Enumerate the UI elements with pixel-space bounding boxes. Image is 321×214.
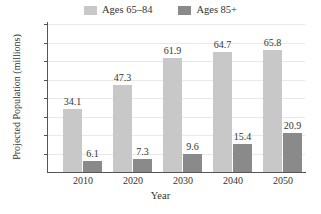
bar-group: 47.37.3 xyxy=(113,24,153,172)
bar-group: 65.820.9 xyxy=(263,24,303,172)
bar-ages-65-84 xyxy=(63,109,82,172)
x-axis-line xyxy=(47,172,306,173)
y-axis-tick-mark xyxy=(44,24,48,25)
y-axis-tick-mark xyxy=(44,98,48,99)
y-axis-tick-mark xyxy=(44,43,48,44)
y-axis-tick-mark xyxy=(44,135,48,136)
y-axis-tick-mark xyxy=(44,61,48,62)
bar-value-label: 65.8 xyxy=(264,38,282,48)
bar-value-label: 15.4 xyxy=(234,132,252,142)
x-axis-tick-label: 2030 xyxy=(158,176,208,186)
bar-value-label: 61.9 xyxy=(164,46,182,56)
legend-swatch-icon-ages-85-plus xyxy=(178,6,191,15)
bar-ages-85-plus xyxy=(283,133,302,172)
bar-value-label: 64.7 xyxy=(214,40,232,50)
x-axis-tick-label: 2050 xyxy=(258,176,308,186)
legend-label-ages-85-plus: Ages 85+ xyxy=(196,5,237,16)
y-axis-tick-mark xyxy=(44,80,48,81)
bar-ages-65-84 xyxy=(263,50,282,172)
chart-legend: Ages 65–84 Ages 85+ xyxy=(0,3,321,17)
bar-group: 64.715.4 xyxy=(213,24,253,172)
y-axis-title: Projected Population (millions) xyxy=(12,22,22,172)
x-axis-tick-label: 2010 xyxy=(58,176,108,186)
bar-value-label: 47.3 xyxy=(114,73,132,83)
x-axis-tick-label: 2020 xyxy=(108,176,158,186)
y-axis-tick-mark xyxy=(44,117,48,118)
bar-ages-65-84 xyxy=(113,85,132,173)
legend-swatch-icon-ages-65-84 xyxy=(84,6,97,15)
legend-item-ages-65-84: Ages 65–84 xyxy=(84,5,152,16)
bar-ages-85-plus xyxy=(83,161,102,172)
bar-ages-65-84 xyxy=(213,52,232,172)
bar-value-label: 20.9 xyxy=(284,121,302,131)
bar-ages-65-84 xyxy=(163,58,182,173)
x-axis-tick-label: 2040 xyxy=(208,176,258,186)
bar-ages-85-plus xyxy=(233,144,252,172)
x-axis-title: Year xyxy=(0,191,321,202)
bar-group: 34.16.1 xyxy=(63,24,103,172)
plot-area: 34.16.147.37.361.99.664.715.465.820.9 xyxy=(48,24,305,172)
bar-value-label: 7.3 xyxy=(136,147,149,157)
bar-value-label: 9.6 xyxy=(186,142,199,152)
y-axis-tick-mark xyxy=(44,154,48,155)
bar-group: 61.99.6 xyxy=(163,24,203,172)
bar-chart: Ages 65–84 Ages 85+ Projected Population… xyxy=(0,0,321,214)
legend-item-ages-85-plus: Ages 85+ xyxy=(178,5,237,16)
legend-label-ages-65-84: Ages 65–84 xyxy=(102,5,152,16)
bar-value-label: 34.1 xyxy=(64,97,82,107)
bar-ages-85-plus xyxy=(133,159,152,173)
bar-ages-85-plus xyxy=(183,154,202,172)
bar-value-label: 6.1 xyxy=(86,149,99,159)
